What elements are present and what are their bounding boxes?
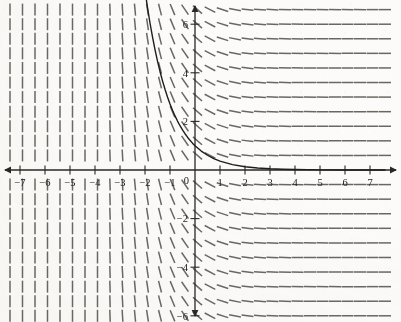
- slope-mark: [193, 210, 202, 218]
- slope-mark: [159, 179, 162, 191]
- slope-mark: [193, 297, 202, 305]
- slope-mark: [170, 281, 175, 292]
- slope-mark: [193, 93, 202, 101]
- slope-mark: [122, 4, 123, 16]
- slope-mark: [134, 47, 135, 59]
- slope-mark: [193, 239, 202, 247]
- slope-mark: [217, 8, 228, 12]
- slope-mark: [134, 266, 135, 278]
- slope-mark: [229, 111, 241, 113]
- x-tick-label: 6: [342, 177, 347, 188]
- slope-mark: [229, 213, 241, 215]
- slope-field-figure: −7−6−5−4−3−2−11234567−6−4−22460: [0, 0, 401, 322]
- x-tick-label: −1: [164, 177, 175, 188]
- slope-mark: [170, 48, 175, 59]
- slope-mark: [254, 53, 266, 54]
- x-tick-label: −4: [89, 177, 101, 188]
- slope-mark: [217, 285, 228, 289]
- slope-mark: [229, 285, 241, 287]
- slope-mark: [254, 82, 266, 83]
- solution-curve: [145, 0, 385, 170]
- slope-mark: [217, 241, 228, 245]
- slope-mark: [242, 23, 254, 24]
- slope-mark: [147, 120, 149, 132]
- slope-mark: [159, 208, 162, 220]
- slope-mark: [205, 269, 216, 275]
- slope-mark: [267, 9, 279, 10]
- plot-canvas: −7−6−5−4−3−2−11234567−6−4−22460: [0, 0, 401, 322]
- slope-mark: [193, 64, 202, 72]
- slope-mark: [182, 107, 189, 117]
- slope-mark: [242, 38, 254, 39]
- slope-mark: [122, 193, 123, 205]
- slope-mark: [242, 213, 254, 214]
- slope-mark: [254, 272, 266, 273]
- slope-mark: [122, 310, 123, 322]
- slope-mark: [147, 77, 149, 89]
- slope-mark: [267, 316, 279, 317]
- y-axis-arrow-up: [192, 5, 199, 12]
- slope-mark: [134, 222, 135, 234]
- slope-mark: [134, 135, 135, 147]
- slope-mark: [217, 37, 228, 41]
- slope-mark: [254, 111, 266, 112]
- slope-mark: [254, 199, 266, 200]
- slope-mark: [242, 155, 254, 156]
- slope-mark: [134, 208, 135, 220]
- slope-mark: [205, 240, 216, 246]
- slope-mark: [182, 223, 189, 233]
- slope-mark: [217, 314, 228, 318]
- slope-mark: [205, 284, 216, 290]
- slope-mark: [267, 228, 279, 229]
- y-tick-label: 4: [183, 68, 189, 79]
- slope-mark: [205, 65, 216, 71]
- slope-mark: [147, 193, 149, 205]
- slope-mark: [134, 18, 135, 30]
- x-tick-label: 2: [242, 177, 247, 188]
- slope-mark: [229, 271, 241, 273]
- slope-mark: [147, 252, 149, 264]
- slope-mark: [267, 199, 279, 200]
- slope-mark: [147, 135, 149, 147]
- slope-mark: [254, 155, 266, 156]
- slope-mark: [170, 92, 175, 103]
- x-tick-label: 5: [317, 177, 322, 188]
- slope-mark: [242, 111, 254, 112]
- slope-mark: [267, 39, 279, 40]
- slope-mark: [229, 242, 241, 244]
- slope-mark: [267, 155, 279, 156]
- slope-mark: [205, 255, 216, 261]
- slope-mark: [122, 18, 123, 30]
- slope-mark: [205, 7, 216, 13]
- slope-mark: [205, 226, 216, 232]
- slope-mark: [182, 253, 189, 263]
- slope-mark: [182, 34, 189, 44]
- slope-mark: [147, 237, 149, 249]
- slope-mark: [217, 52, 228, 56]
- slope-mark: [229, 227, 241, 229]
- slope-mark: [267, 111, 279, 112]
- slope-mark: [193, 181, 202, 189]
- slope-mark: [159, 310, 162, 322]
- slope-mark: [122, 222, 123, 234]
- slope-mark: [217, 154, 228, 158]
- slope-field: [10, 4, 391, 322]
- slope-mark: [134, 310, 135, 322]
- slope-mark: [134, 281, 135, 293]
- slope-mark: [147, 62, 149, 74]
- slope-mark: [134, 193, 135, 205]
- slope-mark: [242, 53, 254, 54]
- slope-mark: [267, 257, 279, 258]
- slope-mark: [182, 150, 189, 160]
- slope-mark: [147, 18, 149, 30]
- slope-mark: [170, 223, 175, 234]
- slope-mark: [254, 97, 266, 98]
- slope-mark: [229, 38, 241, 40]
- slope-mark: [229, 125, 241, 127]
- slope-mark: [170, 4, 175, 15]
- slope-mark: [122, 295, 123, 307]
- slope-mark: [122, 77, 123, 89]
- slope-mark: [159, 4, 162, 16]
- slope-mark: [242, 198, 254, 199]
- slope-mark: [242, 82, 254, 83]
